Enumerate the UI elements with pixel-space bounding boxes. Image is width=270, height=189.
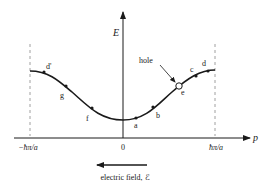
tick-label-pos: ħπ/a bbox=[209, 143, 223, 152]
point-a-marker bbox=[134, 116, 137, 119]
p-axis-label: p bbox=[252, 132, 258, 143]
hole-pointer-arrow bbox=[160, 65, 175, 82]
point-b-label: b bbox=[156, 111, 160, 120]
hole-label: hole bbox=[139, 56, 153, 65]
point-d-prime-label: d' bbox=[46, 62, 52, 71]
point-f-marker bbox=[90, 106, 93, 109]
band-diagram: E p −ħπ/a 0 ħπ/a d' g f a b e c d hole e… bbox=[0, 0, 270, 189]
point-e-label: e bbox=[181, 88, 185, 97]
electric-field-label: electric field, ℰ bbox=[100, 173, 149, 182]
point-g-marker bbox=[64, 84, 67, 87]
point-f-label: f bbox=[86, 114, 89, 123]
tick-label-neg: −ħπ/a bbox=[18, 143, 38, 152]
point-c-label: c bbox=[190, 65, 194, 74]
point-b-marker bbox=[151, 105, 154, 108]
e-axis-label: E bbox=[112, 27, 119, 38]
point-a-label: a bbox=[134, 121, 138, 130]
point-d-marker bbox=[206, 69, 209, 72]
point-d-label: d bbox=[202, 59, 206, 68]
point-c-marker bbox=[194, 74, 197, 77]
point-g-label: g bbox=[60, 91, 64, 100]
tick-label-zero: 0 bbox=[121, 143, 125, 152]
